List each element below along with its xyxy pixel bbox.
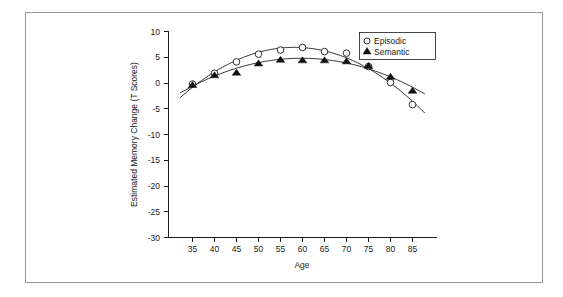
x-tick-label: 45 <box>232 244 242 254</box>
memory-change-scatter-chart: 10 5 0 -5 -10 -15 -20 -25 -30 Estimated … <box>0 0 563 297</box>
data-point-episodic <box>409 101 416 108</box>
x-tick-label: 55 <box>276 244 286 254</box>
chart-canvas: 10 5 0 -5 -10 -15 -20 -25 -30 Estimated … <box>0 0 563 297</box>
y-tick-label: -5 <box>152 104 160 114</box>
data-point-episodic <box>233 59 240 66</box>
y-axis-title: Estimated Memory Change (T Scores) <box>129 62 139 207</box>
x-tick-label: 75 <box>364 244 374 254</box>
data-point-semantic <box>408 87 417 93</box>
x-tick-label: 70 <box>342 244 352 254</box>
y-tick-label: 0 <box>155 78 160 88</box>
data-point-episodic <box>343 50 350 57</box>
x-tick-label: 65 <box>320 244 330 254</box>
y-tick-label: -20 <box>148 181 161 191</box>
x-axis-ticks <box>193 238 413 243</box>
data-point-episodic <box>387 79 394 86</box>
x-tick-label: 35 <box>188 244 198 254</box>
legend-open-circle-icon <box>364 38 370 44</box>
data-point-episodic <box>277 47 284 54</box>
data-point-semantic <box>386 73 395 79</box>
y-tick-label: -10 <box>148 130 161 140</box>
x-tick-label: 40 <box>210 244 220 254</box>
x-tick-label: 50 <box>254 244 264 254</box>
legend-label-episodic: Episodic <box>374 36 407 46</box>
y-tick-label: -30 <box>148 233 161 243</box>
x-axis-title: Age <box>294 260 309 270</box>
data-point-episodic <box>255 51 262 58</box>
data-point-episodic <box>321 48 328 55</box>
data-point-semantic <box>232 69 241 75</box>
data-point-semantic <box>298 57 307 63</box>
legend-label-semantic: Semantic <box>374 47 410 57</box>
y-tick-label: 10 <box>151 27 161 37</box>
x-tick-label: 60 <box>298 244 308 254</box>
chart-legend: Episodic Semantic <box>360 33 436 60</box>
y-tick-label: -25 <box>148 207 161 217</box>
y-tick-label: -15 <box>148 155 161 165</box>
y-axis-ticks <box>164 32 169 238</box>
x-tick-label: 80 <box>386 244 396 254</box>
data-point-episodic <box>299 44 306 51</box>
y-tick-label: 5 <box>155 52 160 62</box>
x-tick-label: 85 <box>408 244 418 254</box>
